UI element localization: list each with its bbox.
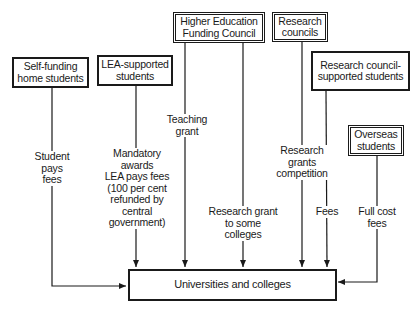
lea-supported-students-label: LEA-supported students [99,59,171,82]
research-council-supported-students-box: Research council-supported students [311,51,410,91]
overseas-students-label: Overseas students [351,129,401,152]
flow-label-student-pays: Student pays fees [31,151,73,186]
self-funding-students-box: Self-funding home students [12,57,89,88]
flow-label-teaching-grant: Teaching grant [166,114,208,137]
hefc-box: Higher Education Funding Council [173,12,265,43]
research-councils-label: Research councils [272,16,327,39]
flow-label-mandatory-awards: Mandatory awards LEA pays fees (100 per … [104,148,170,229]
universities-colleges-box: Universities and colleges [128,269,337,301]
hefc-label: Higher Education Funding Council [176,16,262,39]
flow-label-research-competition: Research grants competition [273,145,331,180]
universities-colleges-label: Universities and colleges [174,279,291,291]
research-councils-box: Research councils [272,12,328,42]
overseas-students-box: Overseas students [348,125,404,156]
flow-label-research-grant: Research grant to some colleges [207,206,279,241]
self-funding-students-label: Self-funding home students [14,61,87,84]
lea-supported-students-box: LEA-supported students [97,55,173,86]
research-council-supported-students-label: Research council-supported students [313,60,408,83]
flow-label-fees: Fees [315,206,339,218]
flow-label-full-cost: Full cost fees [356,206,398,229]
